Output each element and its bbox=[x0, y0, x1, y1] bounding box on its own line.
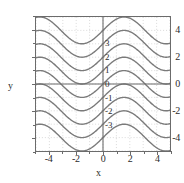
x-axis-label: x bbox=[96, 167, 101, 178]
y-tick-label: -2 bbox=[150, 106, 184, 116]
x-major-tick bbox=[103, 151, 104, 155]
x-major-tick bbox=[130, 151, 131, 155]
y-tick-label-text: -2 bbox=[172, 106, 184, 116]
x-major-tick bbox=[49, 151, 50, 155]
y-axis-label: y bbox=[8, 80, 13, 91]
y-tick-label: 0 bbox=[150, 79, 184, 89]
x-minor-tick bbox=[35, 151, 36, 154]
curve-label: 2 bbox=[105, 53, 110, 62]
y-minor-tick bbox=[33, 98, 36, 99]
y-tick-label: 4 bbox=[150, 25, 184, 35]
y-tick-label: 2 bbox=[150, 52, 184, 62]
x-major-tick bbox=[76, 151, 77, 155]
y-major-tick bbox=[32, 84, 36, 85]
curve-label: 1 bbox=[105, 66, 110, 75]
curve-label: 3 bbox=[105, 39, 110, 48]
y-minor-tick bbox=[33, 43, 36, 44]
y-tick-label-text: 2 bbox=[175, 52, 184, 62]
x-tick-label: -4 bbox=[36, 154, 62, 164]
curve-label: 0 bbox=[105, 80, 110, 89]
x-minor-tick bbox=[89, 151, 90, 154]
curve-label: -3 bbox=[105, 121, 113, 130]
x-tick-label: 4 bbox=[144, 154, 170, 164]
y-tick-label-text: 4 bbox=[175, 25, 184, 35]
curve-label: -1 bbox=[105, 94, 113, 103]
x-minor-tick bbox=[62, 151, 63, 154]
x-tick-label: 0 bbox=[90, 154, 116, 164]
y-minor-tick bbox=[33, 70, 36, 71]
y-major-tick bbox=[32, 57, 36, 58]
y-tick-label-text: -4 bbox=[172, 133, 184, 143]
x-minor-tick bbox=[117, 151, 118, 154]
y-major-tick bbox=[32, 30, 36, 31]
x-minor-tick bbox=[171, 151, 172, 154]
sine-family-figure: y = sin x + C y x 420-2-4 -4-2024 3210-1… bbox=[0, 0, 184, 183]
y-major-tick bbox=[32, 111, 36, 112]
x-minor-tick bbox=[144, 151, 145, 154]
curve-label: -2 bbox=[105, 107, 113, 116]
y-minor-tick bbox=[33, 125, 36, 126]
x-tick-label: -2 bbox=[63, 154, 89, 164]
x-major-tick bbox=[157, 151, 158, 155]
y-tick-label: -4 bbox=[150, 133, 184, 143]
x-tick-label: 2 bbox=[117, 154, 143, 164]
y-minor-tick bbox=[33, 16, 36, 17]
y-tick-label-text: 0 bbox=[175, 79, 184, 89]
y-major-tick bbox=[32, 138, 36, 139]
